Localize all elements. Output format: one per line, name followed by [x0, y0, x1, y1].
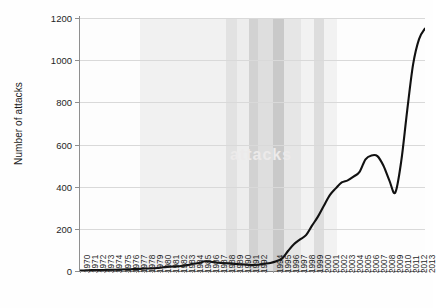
x-axis-tick-mark — [128, 271, 129, 273]
x-axis-tick-mark — [240, 271, 241, 273]
y-axis-tick-label: 400 — [56, 181, 72, 192]
x-axis-tick-mark — [369, 271, 370, 273]
y-axis-tick-label: 1200 — [51, 13, 72, 24]
x-axis-tick-mark — [393, 271, 394, 273]
x-axis-tick-mark — [289, 271, 290, 273]
x-axis-tick-labels: 1970197119721973197419751976197719781979… — [80, 273, 425, 308]
x-axis-tick-mark — [345, 271, 346, 273]
x-axis-tick-mark — [112, 271, 113, 273]
y-axis-line — [79, 16, 80, 272]
x-axis-tick-mark — [120, 271, 121, 273]
x-axis-tick-mark — [401, 271, 402, 273]
x-axis-tick-mark — [88, 271, 89, 273]
y-axis-tick-label: 1000 — [51, 55, 72, 66]
x-axis-tick-mark — [329, 271, 330, 273]
y-axis-title: Number of attacks — [13, 54, 24, 194]
x-axis-tick-mark — [353, 271, 354, 273]
x-axis-tick-mark — [160, 271, 161, 273]
x-axis-tick-mark — [232, 271, 233, 273]
x-axis-tick-mark — [80, 271, 81, 273]
y-axis-tick-labels: 020040060080010001200 — [30, 0, 76, 275]
plot-area: attacks — [80, 18, 425, 271]
y-axis-tick-label: 0 — [67, 266, 72, 277]
x-axis-tick-mark — [216, 271, 217, 273]
y-axis-tick-label: 200 — [56, 223, 72, 234]
x-axis-tick-mark — [361, 271, 362, 273]
series-path — [80, 29, 425, 271]
x-axis-tick-mark — [168, 271, 169, 273]
x-axis-tick-mark — [176, 271, 177, 273]
x-axis-tick-mark — [200, 271, 201, 273]
x-axis-tick-mark — [425, 271, 426, 273]
x-axis-tick-mark — [104, 271, 105, 273]
y-axis-tick-label: 600 — [56, 139, 72, 150]
x-axis-tick-mark — [224, 271, 225, 273]
x-axis-tick-mark — [96, 271, 97, 273]
x-axis-tick-mark — [297, 271, 298, 273]
x-axis-tick-mark — [385, 271, 386, 273]
x-axis-tick-mark — [273, 271, 274, 273]
data-series-line — [80, 18, 425, 271]
x-axis-tick-mark — [257, 271, 258, 273]
x-axis-tick-mark — [136, 271, 137, 273]
y-axis-tick-label: 800 — [56, 97, 72, 108]
x-axis-tick-mark — [208, 271, 209, 273]
x-axis-tick-mark — [248, 271, 249, 273]
x-axis-tick-mark — [152, 271, 153, 273]
x-axis-tick-label: 2013 — [428, 255, 437, 273]
x-axis-tick-mark — [337, 271, 338, 273]
x-axis-tick-mark — [409, 271, 410, 273]
x-axis-tick-mark — [313, 271, 314, 273]
x-axis-tick-mark — [321, 271, 322, 273]
x-axis-tick-mark — [281, 271, 282, 273]
x-axis-tick-mark — [265, 271, 266, 273]
x-axis-tick-mark — [144, 271, 145, 273]
x-axis-tick-mark — [417, 271, 418, 273]
x-axis-tick-mark — [192, 271, 193, 273]
x-axis-tick-mark — [184, 271, 185, 273]
x-axis-tick-mark — [305, 271, 306, 273]
x-axis-tick-mark — [377, 271, 378, 273]
